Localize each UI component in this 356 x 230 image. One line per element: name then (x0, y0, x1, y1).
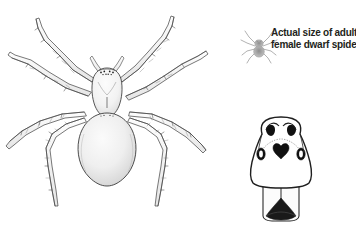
spider-illustration-figure: Actual size of adult female dwarf spider (0, 0, 356, 230)
caption-line-1: Actual size of adult (271, 27, 356, 39)
epigynum-lower-plate (263, 185, 299, 221)
caption-line-2: female dwarf spider (271, 39, 356, 51)
actual-size-caption: Actual size of adult female dwarf spider (271, 27, 356, 50)
